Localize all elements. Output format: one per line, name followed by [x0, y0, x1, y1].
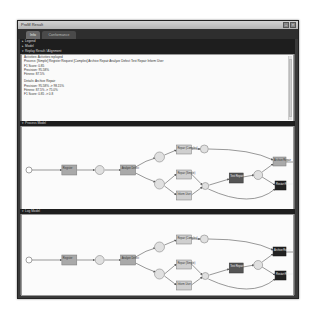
transition-label: Test Repair	[230, 174, 243, 178]
report-scrollbar[interactable]	[288, 56, 292, 120]
place	[155, 269, 165, 279]
transition-label: Analyze Defect	[122, 256, 140, 260]
arc	[164, 264, 176, 274]
transition-label: Repair (Complex)	[177, 236, 197, 240]
transition-label: Restart Repair	[276, 272, 293, 276]
arc	[262, 254, 273, 262]
arc	[243, 175, 254, 177]
transition-label: Register	[63, 256, 73, 260]
arc	[208, 239, 273, 250]
arc	[164, 240, 176, 245]
arc	[243, 265, 254, 267]
transition-label: Repair (Simple)	[177, 261, 195, 265]
arc	[164, 174, 176, 184]
content-area: ▸Legend ▸Model ▾Replay Result / Alignmen…	[20, 39, 295, 295]
arc	[209, 179, 229, 185]
arc	[136, 158, 156, 167]
transition-label: Archive Repair	[274, 248, 291, 252]
place	[200, 145, 208, 153]
arc	[164, 276, 176, 285]
place	[202, 183, 209, 190]
arc	[209, 269, 229, 275]
petri-net-log: RegisterAnalyze DefectRepair (Complex)Re…	[22, 215, 293, 295]
arc	[164, 150, 176, 155]
place	[200, 235, 208, 243]
arc	[208, 279, 275, 289]
place-start	[26, 167, 32, 173]
arc	[208, 149, 273, 160]
arc	[136, 248, 156, 257]
place	[95, 166, 104, 175]
arc	[262, 177, 275, 185]
arc	[136, 263, 156, 272]
transition-label: Test Repair	[230, 264, 243, 268]
minimize-button[interactable]: –	[283, 22, 289, 28]
log-model-view[interactable]: RegisterAnalyze DefectRepair (Complex)Re…	[21, 214, 294, 296]
transition-label: Inform User	[177, 282, 191, 286]
arc	[136, 173, 156, 182]
arc	[262, 164, 273, 172]
title-bar: ProM Result – ×	[18, 21, 298, 29]
transition-label: Repair (Simple)	[177, 171, 195, 175]
transition-label: Archive Repair	[274, 158, 291, 162]
place	[254, 261, 263, 270]
result-window: ProM Result – × Info Conformance Checkin…	[17, 20, 299, 299]
transition-label: Restart Repair	[276, 182, 293, 186]
place	[202, 273, 209, 280]
place	[95, 256, 104, 265]
transition-label: Register	[63, 166, 73, 170]
window-title: ProM Result	[21, 22, 43, 27]
arc	[191, 187, 202, 195]
transition-label: Analyze Defect	[122, 166, 140, 170]
arc	[191, 277, 202, 285]
place	[254, 171, 263, 180]
place	[155, 179, 165, 189]
scroll-thumb[interactable]	[289, 59, 292, 117]
close-button[interactable]: ×	[290, 22, 296, 28]
arc	[164, 186, 176, 195]
tab-bar: Info Conformance Checking	[18, 29, 298, 39]
tab-conformance[interactable]: Conformance Checking	[42, 31, 76, 39]
transition-label: Repair (Complex)	[177, 146, 197, 150]
place	[155, 242, 165, 252]
arc	[208, 189, 275, 199]
place-start	[26, 257, 32, 263]
place	[155, 152, 165, 162]
arc	[262, 267, 275, 275]
arc	[191, 264, 202, 275]
tab-info[interactable]: Info	[26, 31, 40, 39]
arc	[191, 174, 202, 185]
transition-label: Inform User	[177, 192, 191, 196]
report-line: F1 Score: 0.85 -> 0.8	[22, 92, 293, 96]
report-panel: Activities: Activities replayedProcess: …	[21, 54, 294, 122]
process-model-view[interactable]: RegisterAnalyze DefectRepair (Complex)Re…	[21, 126, 294, 210]
petri-net-process: RegisterAnalyze DefectRepair (Complex)Re…	[22, 127, 293, 209]
